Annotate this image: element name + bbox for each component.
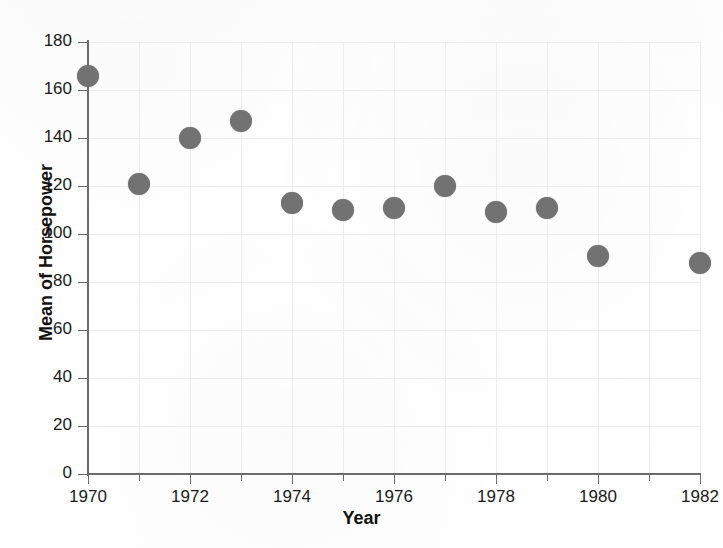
x-axis-tick-label: 1980 xyxy=(568,487,628,507)
data-point xyxy=(689,252,711,274)
y-axis-title: Mean of Horsepower xyxy=(36,103,57,403)
x-axis-tick-minor xyxy=(445,475,446,481)
data-point xyxy=(128,173,150,195)
gridline-vertical xyxy=(496,42,497,474)
x-axis-tick-minor xyxy=(241,475,242,481)
y-axis-tick xyxy=(78,42,88,43)
y-axis-tick xyxy=(78,90,88,91)
x-axis-tick-minor xyxy=(343,475,344,481)
y-axis-tick-label: 180 xyxy=(10,31,72,51)
y-axis-tick xyxy=(78,474,88,475)
gridline-vertical xyxy=(343,42,344,474)
x-axis-tick-major xyxy=(598,475,599,484)
x-axis-tick-major xyxy=(496,475,497,484)
gridline-vertical xyxy=(394,42,395,474)
gridline-vertical xyxy=(547,42,548,474)
x-axis-tick-major xyxy=(394,475,395,484)
gridline-vertical xyxy=(649,42,650,474)
data-point xyxy=(383,197,405,219)
y-axis-tick xyxy=(78,186,88,187)
gridline-vertical xyxy=(190,42,191,474)
x-axis-tick-major xyxy=(190,475,191,484)
data-point xyxy=(332,199,354,221)
data-point xyxy=(434,175,456,197)
data-point xyxy=(179,127,201,149)
x-axis-tick-minor xyxy=(139,475,140,481)
x-axis-tick-label: 1982 xyxy=(670,487,723,507)
scatter-plot-figure: 020406080100120140160180 197019721974197… xyxy=(0,0,723,548)
gridline-vertical xyxy=(241,42,242,474)
gridline-vertical xyxy=(292,42,293,474)
x-axis-tick-major xyxy=(88,475,89,484)
y-axis-tick-label: 160 xyxy=(10,79,72,99)
data-point xyxy=(77,65,99,87)
x-axis-tick-major xyxy=(700,475,701,484)
data-point xyxy=(587,245,609,267)
cutoff-header-text xyxy=(60,0,660,9)
x-axis-tick-minor xyxy=(547,475,548,481)
y-axis-line xyxy=(87,40,89,476)
y-axis-tick xyxy=(78,330,88,331)
y-axis-tick-label: 0 xyxy=(10,463,72,483)
y-axis-tick xyxy=(78,426,88,427)
x-axis-tick-minor xyxy=(649,475,650,481)
gridline-vertical xyxy=(139,42,140,474)
y-axis-tick-label: 20 xyxy=(10,415,72,435)
x-axis-tick-label: 1970 xyxy=(58,487,118,507)
y-axis-tick xyxy=(78,234,88,235)
x-axis-tick-label: 1976 xyxy=(364,487,424,507)
x-axis-tick-major xyxy=(292,475,293,484)
gridline-vertical xyxy=(445,42,446,474)
x-axis-tick-label: 1974 xyxy=(262,487,322,507)
y-axis-tick xyxy=(78,282,88,283)
y-axis-tick xyxy=(78,378,88,379)
x-axis-tick-label: 1978 xyxy=(466,487,526,507)
x-axis-tick-label: 1972 xyxy=(160,487,220,507)
y-axis-tick xyxy=(78,138,88,139)
data-point xyxy=(536,197,558,219)
x-axis-title: Year xyxy=(0,508,723,529)
data-point xyxy=(281,192,303,214)
